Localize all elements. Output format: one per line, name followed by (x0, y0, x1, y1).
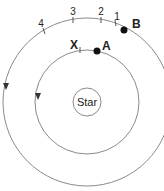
planet-a-dot (94, 48, 101, 55)
tick-label-1: 1 (114, 11, 120, 22)
planet-b-dot (121, 27, 128, 34)
star-label: Star (77, 96, 98, 108)
marker-x-label: X (70, 38, 78, 52)
planet-b-label: B (132, 17, 141, 31)
planet-a-label: A (102, 39, 111, 53)
inner-orbit-arrow-icon (35, 93, 41, 100)
tick-label-3: 3 (70, 6, 76, 17)
tick-label-4: 4 (38, 18, 44, 29)
tick-label-2: 2 (98, 6, 104, 17)
orbit-diagram: Star 1 2 3 4 B X A (0, 0, 164, 191)
